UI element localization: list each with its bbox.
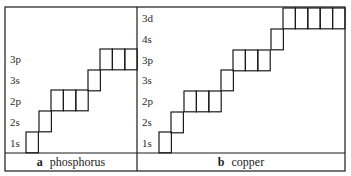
orbital-2p <box>51 90 88 111</box>
orbital-box <box>76 90 88 111</box>
orbital-box <box>320 8 332 29</box>
panel-phosphorus: 3p3s2p2s1s a phosphorus <box>10 49 137 169</box>
orbital-box <box>100 49 112 70</box>
orbital-box <box>112 49 124 70</box>
panel-copper: 3d4s3p3s2p2s1s b copper <box>142 8 345 169</box>
level-label-3s: 3s <box>10 74 20 86</box>
orbital-box <box>283 8 295 29</box>
orbital-3p <box>233 50 270 71</box>
orbital-filling-diagram: 3p3s2p2s1s a phosphorus 3d4s3p3s2p2s1s b… <box>0 0 351 176</box>
level-label-3d: 3d <box>142 12 154 24</box>
level-label-2p: 2p <box>10 95 22 107</box>
level-label-3p: 3p <box>10 53 22 65</box>
orbital-box <box>258 50 270 71</box>
level-label-2s: 2s <box>142 116 152 128</box>
outer-border <box>5 7 345 171</box>
energy-level-labels: 3p3s2p2s1s <box>10 53 22 149</box>
caption-name: phosphorus <box>50 155 106 169</box>
orbital-box <box>184 91 196 112</box>
orbital-box <box>125 49 137 70</box>
orbital-box <box>88 70 100 91</box>
orbital-box <box>159 132 171 153</box>
orbital-box <box>39 111 51 132</box>
orbital-3s <box>88 70 100 91</box>
level-label-3p: 3p <box>142 54 154 66</box>
orbital-box <box>333 8 345 29</box>
orbital-box <box>171 112 183 133</box>
orbital-box <box>271 29 283 50</box>
caption-letter: a <box>37 155 43 169</box>
orbital-3s <box>221 70 233 91</box>
caption-letter: b <box>218 155 225 169</box>
orbital-box <box>51 90 63 111</box>
level-label-1s: 1s <box>142 137 152 149</box>
orbital-3p <box>100 49 137 70</box>
orbital-2p <box>184 91 221 112</box>
orbital-box <box>196 91 208 112</box>
orbital-2s <box>171 112 183 133</box>
orbital-1s <box>159 132 171 153</box>
energy-level-labels: 3d4s3p3s2p2s1s <box>142 12 154 149</box>
level-label-2p: 2p <box>142 95 154 107</box>
level-label-3s: 3s <box>142 74 152 86</box>
orbital-boxes <box>159 8 345 153</box>
orbital-box <box>308 8 320 29</box>
orbital-box <box>26 132 38 153</box>
orbital-3d <box>283 8 345 29</box>
caption-copper: b copper <box>218 155 264 169</box>
orbital-4s <box>271 29 283 50</box>
orbital-box <box>63 90 75 111</box>
orbital-box <box>233 50 245 71</box>
orbital-boxes <box>26 49 137 153</box>
caption-name: copper <box>232 155 265 169</box>
orbital-box <box>209 91 221 112</box>
orbital-2s <box>39 111 51 132</box>
orbital-box <box>245 50 257 71</box>
level-label-2s: 2s <box>10 116 20 128</box>
orbital-box <box>221 70 233 91</box>
level-label-4s: 4s <box>142 33 152 45</box>
orbital-box <box>295 8 307 29</box>
diagram-frame <box>5 7 345 171</box>
caption-phosphorus: a phosphorus <box>37 155 106 169</box>
orbital-1s <box>26 132 38 153</box>
level-label-1s: 1s <box>10 137 20 149</box>
